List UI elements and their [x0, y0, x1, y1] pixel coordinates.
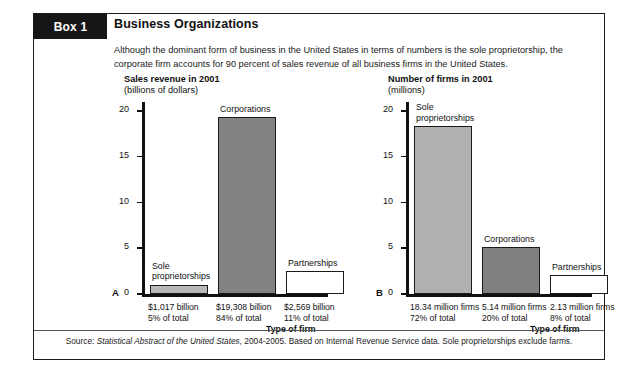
chart-b-bar-corporations [482, 247, 540, 294]
source-title-italic: Statistical Abstract of the United State… [97, 336, 242, 346]
chart-b-label-partnerships: Partnerships [552, 262, 628, 273]
chart-b-plot: B 0 5 10 15 20 Sole proprietorships Corp… [406, 102, 592, 294]
source-note: Source: Statistical Abstract of the Unit… [34, 336, 604, 346]
source-divider [34, 330, 604, 331]
chart-b-bar-sole-proprietorships [414, 126, 472, 294]
chart-a-x-axis [142, 294, 328, 297]
chart-a-caption-corporations: $19,308 billion 84% of total [216, 302, 286, 323]
chart-a-plot: A 0 5 10 15 20 Sole proprietorships Corp… [142, 102, 328, 294]
chart-a-bar-sole-proprietorships [150, 285, 208, 294]
chart-a-panel-letter: A [112, 287, 119, 298]
chart-a-label-sole-proprietorships: Sole proprietorships [152, 261, 228, 282]
chart-panel-a: Sales revenue in 2001 (billions of dolla… [80, 74, 333, 324]
chart-a-tick-label-10: 10 [119, 196, 129, 206]
box-intro-paragraph: Although the dominant form of business i… [114, 44, 584, 71]
chart-b-tick-10: 10 [401, 202, 406, 204]
box-title: Business Organizations [114, 17, 259, 31]
chart-b-tick-15: 15 [401, 156, 406, 158]
chart-b-caption-corporations: 5.14 million firms 20% of total [482, 302, 554, 323]
source-prefix: Source: [66, 336, 97, 346]
chart-b-tick-label-0: 0 [388, 287, 393, 297]
chart-b-tick-label-5: 5 [388, 241, 393, 251]
chart-b-tick-5: 5 [401, 247, 406, 249]
chart-a-y-axis [142, 102, 145, 294]
chart-a-bar-partnerships [286, 271, 344, 294]
source-rest: 2004-2005. Based on Internal Revenue Ser… [242, 336, 572, 346]
chart-b-title: Number of firms in 2001 [388, 74, 493, 84]
chart-a-x-axis-label: Type of firm [266, 324, 316, 334]
chart-a-subtitle: (billions of dollars) [124, 85, 198, 95]
chart-a-tick-label-20: 20 [119, 104, 129, 114]
chart-a-tick-label-0: 0 [124, 287, 129, 297]
chart-b-tick-label-15: 15 [383, 150, 393, 160]
chart-b-tick-label-20: 20 [383, 104, 393, 114]
chart-b-caption-sole-proprietorships: 18.34 million firms 72% of total [410, 302, 484, 323]
box-container: Box 1 Business Organizations Although th… [33, 13, 605, 360]
chart-b-label-sole-proprietorships: Sole proprietorships [416, 102, 492, 123]
chart-a-caption-sole-proprietorships: $1,017 billion 5% of total [148, 302, 216, 323]
chart-b-x-axis-label: Type of firm [530, 324, 580, 334]
chart-b-bar-partnerships [550, 275, 608, 294]
chart-b-x-axis [406, 294, 592, 297]
chart-b-caption-partnerships: 2.13 million firms 8% of total [550, 302, 620, 323]
chart-b-subtitle: (millions) [388, 85, 425, 95]
box-header: Box 1 Business Organizations [34, 14, 604, 41]
chart-a-label-corporations: Corporations [220, 104, 296, 115]
chart-b-tick-20: 20 [401, 110, 406, 112]
chart-b-tick-label-10: 10 [383, 196, 393, 206]
chart-a-tick-label-15: 15 [119, 150, 129, 160]
chart-b-tick-0: 0 [401, 293, 406, 295]
chart-a-tick-5: 5 [137, 247, 142, 249]
chart-a-tick-15: 15 [137, 156, 142, 158]
chart-a-tick-10: 10 [137, 202, 142, 204]
chart-b-label-corporations: Corporations [484, 234, 560, 245]
box-number-tab: Box 1 [34, 14, 107, 39]
chart-a-tick-20: 20 [137, 110, 142, 112]
chart-b-panel-letter: B [376, 287, 383, 298]
chart-a-tick-label-5: 5 [124, 241, 129, 251]
chart-a-title: Sales revenue in 2001 [124, 74, 220, 84]
chart-b-y-axis [406, 102, 409, 294]
chart-panel-b: Number of firms in 2001 (millions) B 0 5… [344, 74, 597, 324]
chart-a-tick-0: 0 [137, 293, 142, 295]
